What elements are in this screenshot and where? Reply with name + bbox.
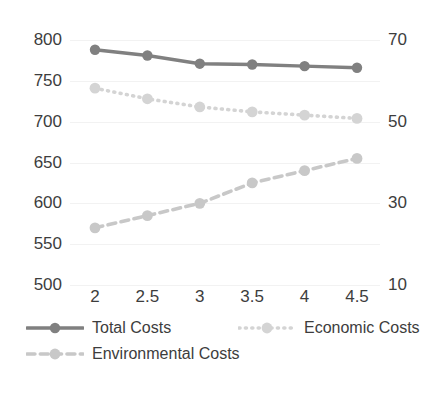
data-point-marker[interactable] (247, 178, 258, 189)
data-point-marker[interactable] (247, 59, 257, 69)
series-line (95, 50, 357, 68)
legend-entry-economic-costs[interactable]: Economic Costs (238, 315, 420, 341)
y-axis-left-tick-label: 600 (34, 194, 62, 211)
series-economic-costs (90, 83, 363, 124)
y-axis-right-tick-label: 50 (388, 113, 407, 130)
data-point-marker[interactable] (352, 153, 363, 164)
x-axis-tick-label: 3.5 (240, 288, 264, 305)
data-point-marker[interactable] (194, 198, 205, 209)
legend-label-environmental-costs: Environmental Costs (84, 345, 240, 363)
data-point-marker[interactable] (142, 50, 152, 60)
y-axis-right-tick-label: 70 (388, 31, 407, 48)
data-point-marker[interactable] (142, 210, 153, 221)
data-point-marker[interactable] (247, 106, 258, 117)
x-axis-tick-label: 4 (300, 288, 309, 305)
data-point-marker[interactable] (195, 58, 205, 68)
data-point-marker[interactable] (90, 45, 100, 55)
x-axis-tick-label: 3 (195, 288, 204, 305)
series-layer (70, 40, 380, 285)
series-environmental-costs (90, 153, 363, 233)
x-axis-tick-label: 4.5 (345, 288, 369, 305)
legend-swatch-dashed-line-icon (26, 346, 84, 362)
x-axis: 22.533.544.5 (70, 288, 380, 314)
legend-swatch-solid-line-icon (26, 320, 84, 336)
legend-label-total-costs: Total Costs (84, 319, 171, 337)
series-line (95, 158, 357, 227)
data-point-marker[interactable] (352, 63, 362, 73)
x-axis-tick-label: 2.5 (136, 288, 160, 305)
y-axis-left-tick-label: 650 (34, 154, 62, 171)
data-point-marker[interactable] (299, 165, 310, 176)
data-point-marker[interactable] (90, 222, 101, 233)
legend-entry-total-costs[interactable]: Total Costs (26, 315, 171, 341)
chart-legend: Total Costs Economic Costs Environmental… (26, 315, 426, 367)
data-point-marker[interactable] (299, 110, 310, 121)
y-axis-left-tick-label: 550 (34, 235, 62, 252)
data-point-marker[interactable] (194, 102, 205, 113)
y-axis-left-tick-label: 500 (34, 276, 62, 293)
legend-row-1: Total Costs Economic Costs (26, 315, 426, 341)
legend-entry-environmental-costs[interactable]: Environmental Costs (26, 341, 240, 367)
plot-area (70, 40, 380, 285)
y-axis-left-tick-label: 800 (34, 31, 62, 48)
x-axis-tick-label: 2 (90, 288, 99, 305)
series-line (95, 88, 357, 118)
y-axis-right-tick-label: 30 (388, 194, 407, 211)
line-chart: 800750700650600550500 70503010 22.533.54… (0, 0, 442, 394)
legend-row-2: Environmental Costs (26, 341, 426, 367)
y-axis-right-tick-label: 10 (388, 276, 407, 293)
legend-swatch-dotted-line-icon (238, 320, 296, 336)
data-point-marker[interactable] (352, 113, 363, 124)
y-axis-left-tick-label: 700 (34, 113, 62, 130)
y-axis-left-tick-label: 750 (34, 72, 62, 89)
gridline (70, 285, 380, 286)
data-point-marker[interactable] (142, 93, 153, 104)
series-total-costs (90, 45, 362, 73)
legend-label-economic-costs: Economic Costs (296, 319, 420, 337)
data-point-marker[interactable] (299, 61, 309, 71)
data-point-marker[interactable] (90, 83, 101, 94)
